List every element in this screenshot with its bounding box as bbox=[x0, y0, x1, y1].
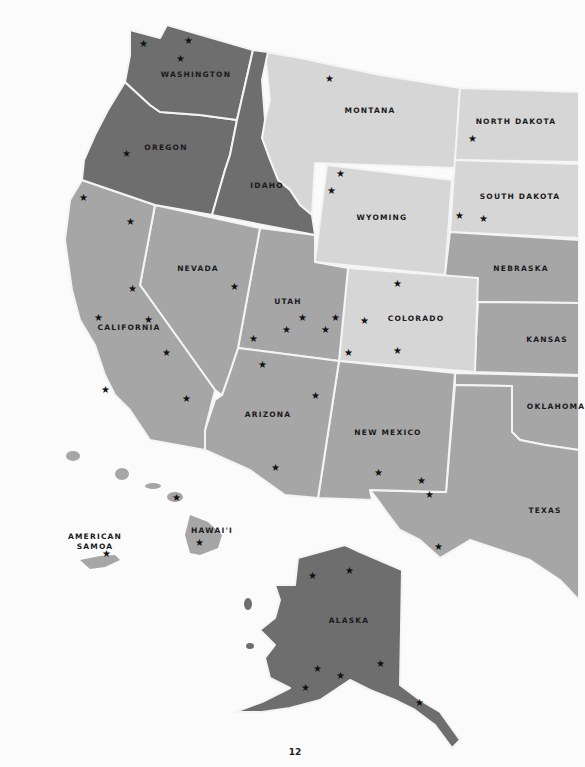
label-texas: TEXAS bbox=[528, 506, 561, 516]
label-idaho: IDAHO bbox=[250, 181, 283, 191]
star-icon: ★ bbox=[101, 385, 110, 395]
star-icon: ★ bbox=[162, 348, 171, 358]
label-new-mexico: NEW MEXICO bbox=[354, 428, 421, 438]
star-icon: ★ bbox=[79, 193, 88, 203]
star-icon: ★ bbox=[313, 664, 322, 674]
star-icon: ★ bbox=[417, 476, 426, 486]
label-montana: MONTANA bbox=[345, 106, 396, 116]
star-icon: ★ bbox=[434, 542, 443, 552]
label-oregon: OREGON bbox=[144, 143, 187, 153]
star-icon: ★ bbox=[184, 36, 193, 46]
star-icon: ★ bbox=[308, 571, 317, 581]
label-arizona: ARIZONA bbox=[245, 410, 292, 420]
star-icon: ★ bbox=[230, 282, 239, 292]
label-utah: UTAH bbox=[274, 297, 302, 307]
island-niihau bbox=[66, 451, 80, 461]
star-icon: ★ bbox=[176, 54, 185, 64]
star-icon: ★ bbox=[374, 468, 383, 478]
star-icon: ★ bbox=[425, 490, 434, 500]
island-american-samoa bbox=[80, 555, 120, 569]
star-icon: ★ bbox=[336, 671, 345, 681]
label-wyoming: WYOMING bbox=[357, 213, 408, 223]
star-icon: ★ bbox=[249, 334, 258, 344]
star-icon: ★ bbox=[122, 149, 131, 159]
star-icon: ★ bbox=[360, 316, 369, 326]
star-icon: ★ bbox=[468, 134, 477, 144]
star-icon: ★ bbox=[479, 214, 488, 224]
label-hawaii: HAWAI'I bbox=[191, 526, 233, 536]
star-icon: ★ bbox=[144, 315, 153, 325]
page-number: 12 bbox=[289, 747, 302, 757]
star-icon: ★ bbox=[325, 74, 334, 84]
star-icon: ★ bbox=[345, 566, 354, 576]
island-molokai bbox=[145, 483, 161, 489]
label-american-samoa-line1: AMERICAN bbox=[68, 532, 122, 542]
star-icon: ★ bbox=[393, 346, 402, 356]
star-icon: ★ bbox=[102, 549, 111, 559]
star-icon: ★ bbox=[301, 683, 310, 693]
star-icon: ★ bbox=[271, 463, 280, 473]
star-icon: ★ bbox=[311, 391, 320, 401]
star-icon: ★ bbox=[376, 659, 385, 669]
star-icon: ★ bbox=[331, 313, 340, 323]
star-icon: ★ bbox=[172, 493, 181, 503]
star-icon: ★ bbox=[182, 394, 191, 404]
star-icon: ★ bbox=[415, 698, 424, 708]
label-kansas: KANSAS bbox=[526, 335, 568, 345]
island-st-lawrence bbox=[244, 598, 252, 610]
star-icon: ★ bbox=[298, 313, 307, 323]
label-north-dakota: NORTH DAKOTA bbox=[476, 117, 557, 127]
label-nebraska: NEBRASKA bbox=[493, 264, 548, 274]
label-south-dakota: SOUTH DAKOTA bbox=[480, 192, 561, 202]
star-icon: ★ bbox=[195, 538, 204, 548]
star-icon: ★ bbox=[94, 313, 103, 323]
label-oklahoma: OKLAHOMA bbox=[527, 402, 585, 412]
star-icon: ★ bbox=[258, 360, 267, 370]
star-icon: ★ bbox=[336, 169, 345, 179]
star-icon: ★ bbox=[128, 284, 137, 294]
star-icon: ★ bbox=[321, 325, 330, 335]
island-oahu bbox=[115, 468, 129, 480]
star-icon: ★ bbox=[139, 39, 148, 49]
star-icon: ★ bbox=[393, 279, 402, 289]
star-icon: ★ bbox=[327, 186, 336, 196]
island-nunivak bbox=[246, 643, 254, 649]
label-nevada: NEVADA bbox=[177, 264, 219, 274]
star-icon: ★ bbox=[282, 325, 291, 335]
label-colorado: COLORADO bbox=[388, 314, 445, 324]
star-icon: ★ bbox=[455, 211, 464, 221]
label-washington: WASHINGTON bbox=[161, 70, 231, 80]
label-alaska: ALASKA bbox=[329, 616, 370, 626]
label-california: CALIFORNIA bbox=[97, 323, 160, 333]
star-icon: ★ bbox=[126, 217, 135, 227]
star-icon: ★ bbox=[344, 348, 353, 358]
